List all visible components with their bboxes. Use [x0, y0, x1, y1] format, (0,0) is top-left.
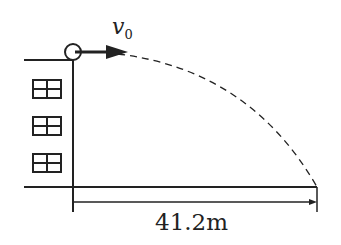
window-3 — [33, 154, 61, 172]
velocity-label: v0 — [112, 14, 133, 42]
window-1 — [33, 80, 61, 98]
window-2 — [33, 117, 61, 135]
trajectory-dashed — [118, 54, 317, 187]
distance-label: 41.2m — [155, 209, 228, 235]
velocity-arrowhead — [106, 45, 128, 59]
dimension-arrowhead — [309, 199, 317, 205]
